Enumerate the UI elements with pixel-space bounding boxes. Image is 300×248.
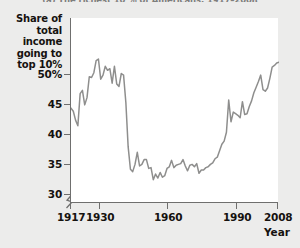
income-share-line-chart (71, 18, 279, 203)
x-tick-mark-1917 (70, 203, 71, 209)
x-axis-title: Year (264, 226, 290, 238)
chart-caption: (a) The richest 10 % of Americans, 1917–… (0, 0, 300, 2)
series-line-top10 (71, 59, 279, 180)
x-tick-label-1917: 1917 (57, 211, 85, 223)
y-tick-label-50: 50% (16, 68, 62, 80)
x-tick-label-1960: 1960 (154, 211, 182, 223)
x-tick-label-2008: 2008 (264, 211, 292, 223)
y-axis-title-line-2: total income (0, 25, 62, 48)
x-tick-label-1930: 1930 (86, 211, 114, 223)
x-tick-mark-1990 (236, 203, 237, 209)
x-tick-mark-2008 (277, 203, 278, 209)
x-tick-mark-1930 (99, 203, 100, 209)
x-tick-label-1990: 1990 (223, 211, 251, 223)
y-tick-label-40: 40 (16, 128, 62, 140)
x-tick-mark-1960 (167, 203, 168, 209)
y-axis-title-line-1: Share of (0, 13, 62, 25)
plot-area (70, 18, 278, 203)
y-axis-title: Share of total income going to top 10% (0, 13, 62, 71)
y-tick-label-45: 45 (16, 98, 62, 110)
chart-figure: (a) The richest 10 % of Americans, 1917–… (0, 0, 300, 248)
y-tick-label-30: 30 (16, 188, 62, 200)
y-tick-label-35: 35 (16, 158, 62, 170)
y-axis-title-line-3: going to (0, 48, 62, 60)
